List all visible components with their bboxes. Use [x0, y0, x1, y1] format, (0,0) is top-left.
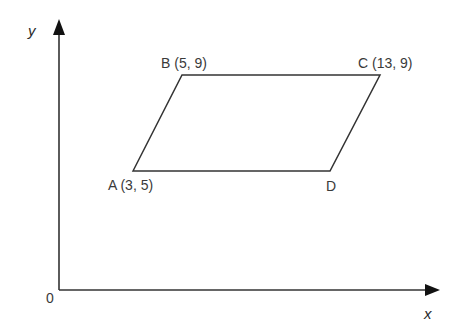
vertex-b-label: B (5, 9) — [161, 55, 207, 71]
y-axis-arrow-icon — [53, 19, 65, 35]
origin-label: 0 — [46, 290, 54, 306]
x-axis-arrow-icon — [425, 284, 440, 296]
vertex-c-label: C (13, 9) — [358, 55, 412, 71]
y-axis-label: y — [27, 22, 37, 39]
vertex-a-label: A (3, 5) — [108, 177, 153, 193]
parallelogram-abcd — [133, 75, 380, 171]
x-axis-label: x — [423, 305, 432, 322]
vertex-d-label: D — [326, 178, 336, 194]
coordinate-diagram: y x 0 A (3, 5) B (5, 9) C (13, 9) D — [0, 0, 465, 334]
